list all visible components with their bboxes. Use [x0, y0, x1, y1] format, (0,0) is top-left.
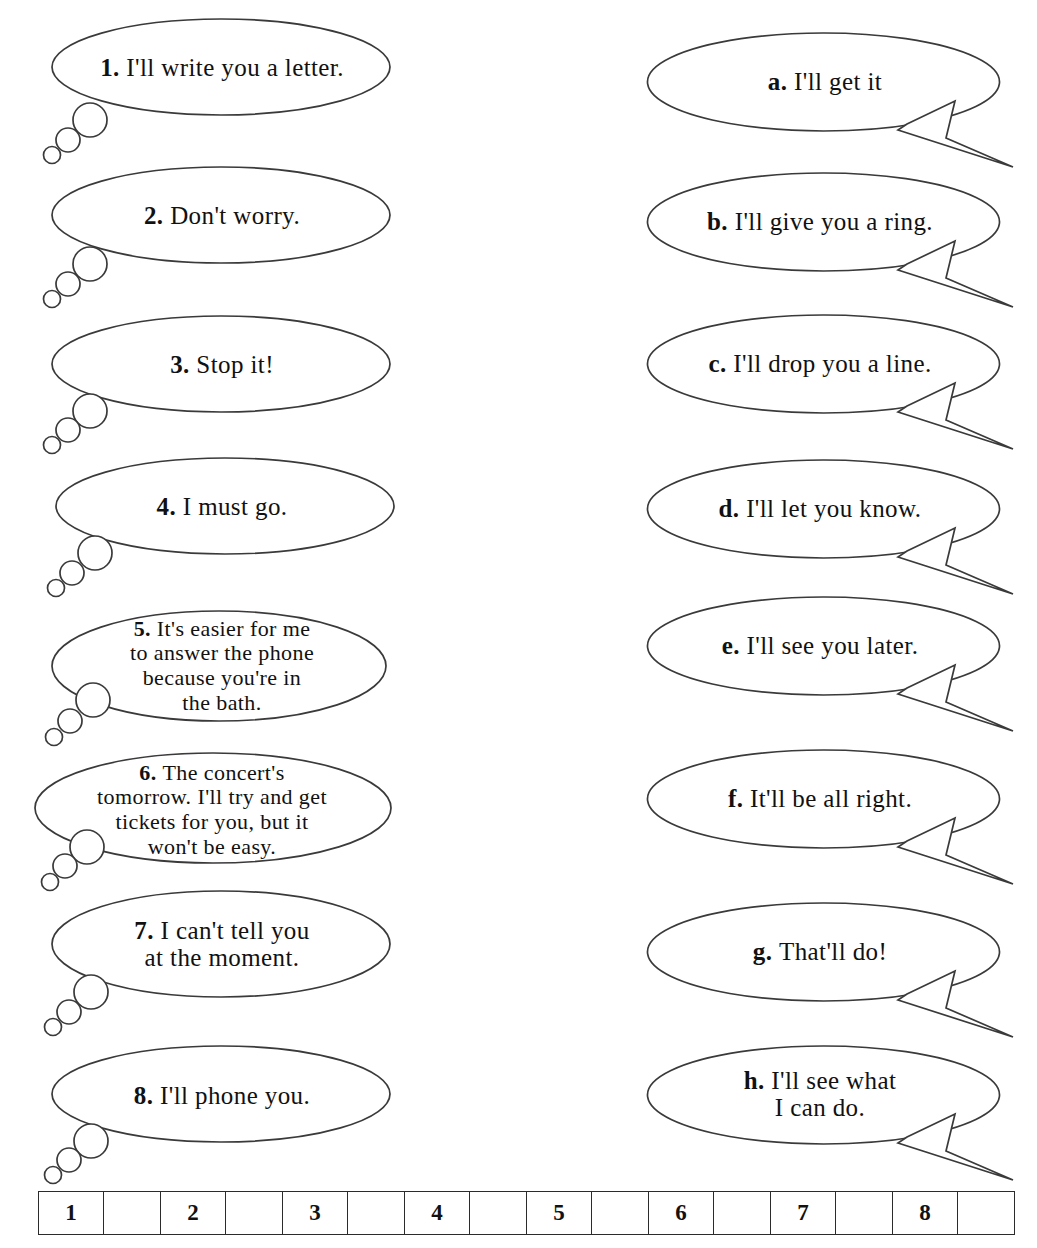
speech-bubble-tail	[898, 383, 1013, 449]
thought-dot-small	[44, 291, 61, 308]
answer-table-blank-cell-6[interactable]	[714, 1192, 771, 1235]
thought-bubble-6-text: 6. The concert'stomorrow. I'll try and g…	[34, 760, 390, 860]
answer-table-blank-cell-5[interactable]	[592, 1192, 649, 1235]
answer-table[interactable]: 12345678	[38, 1191, 1015, 1235]
answer-table-number-cell-5: 5	[527, 1192, 592, 1235]
speech-bubble-d-body: I'll let you know.	[746, 495, 921, 522]
thought-bubble-5-marker: 5.	[134, 616, 151, 641]
answer-table-blank-cell-2[interactable]	[226, 1192, 283, 1235]
answer-table-blank-cell-1[interactable]	[104, 1192, 161, 1235]
speech-bubble-g-marker: g.	[753, 938, 773, 965]
thought-dot-medium	[56, 418, 80, 442]
thought-bubble-7-text: 7. I can't tell youat the moment.	[52, 910, 392, 978]
answer-table-blank-cell-7[interactable]	[836, 1192, 893, 1235]
thought-bubble-1-marker: 1.	[100, 54, 120, 81]
answer-table-number-cell-4: 4	[405, 1192, 470, 1235]
thought-bubble-6-marker: 6.	[139, 760, 156, 785]
speech-bubble-c-text: c. I'll drop you a line.	[650, 340, 990, 386]
answer-table-blank-cell-3[interactable]	[348, 1192, 405, 1235]
thought-dot-small	[45, 1019, 62, 1036]
answer-table-number-cell-3: 3	[283, 1192, 348, 1235]
answer-table-number-cell-2: 2	[161, 1192, 226, 1235]
thought-dot-small	[48, 580, 65, 597]
thought-bubble-8-body: I'll phone you.	[160, 1082, 310, 1109]
speech-bubble-b-marker: b.	[707, 208, 728, 235]
answer-table-number-cell-1: 1	[39, 1192, 104, 1235]
speech-bubble-d-marker: d.	[719, 495, 740, 522]
thought-bubble-7-body: I can't tell youat the moment.	[145, 917, 310, 971]
speech-bubble-f-body: It'll be all right.	[750, 785, 912, 812]
speech-bubble-tail	[898, 528, 1013, 594]
speech-bubble-e-text: e. I'll see you later.	[650, 622, 990, 668]
answer-table-blank-cell-4[interactable]	[470, 1192, 527, 1235]
thought-dot-large	[74, 1124, 108, 1158]
thought-dot-small	[44, 437, 61, 454]
speech-bubble-a-marker: a.	[768, 68, 788, 95]
thought-bubble-2-body: Don't worry.	[170, 202, 300, 229]
thought-bubble-5-text: 5. It's easier for meto answer the phone…	[52, 616, 392, 716]
speech-bubble-c-body: I'll drop you a line.	[733, 350, 931, 377]
speech-bubble-g-text: g. That'll do!	[650, 928, 990, 974]
thought-dot-small	[46, 729, 63, 746]
speech-bubble-b-body: I'll give you a ring.	[735, 208, 933, 235]
thought-bubble-4-marker: 4.	[157, 493, 177, 520]
thought-dot-small	[42, 874, 59, 891]
thought-dot-small	[44, 147, 61, 164]
speech-bubble-tail	[898, 241, 1013, 307]
worksheet-page: 1. I'll write you a letter. 2. Don't wor…	[0, 0, 1037, 1248]
speech-bubble-tail	[898, 818, 1013, 884]
thought-bubble-4-body: I must go.	[183, 493, 288, 520]
speech-bubble-c-marker: c.	[708, 350, 726, 377]
thought-dot-large	[78, 536, 112, 570]
thought-bubble-1	[44, 19, 391, 164]
speech-bubble-d-text: d. I'll let you know.	[650, 485, 990, 531]
answer-table-row: 12345678	[39, 1192, 1015, 1235]
answer-table-number-cell-6: 6	[649, 1192, 714, 1235]
speech-bubble-b-text: b. I'll give you a ring.	[650, 198, 990, 244]
thought-dot-large	[73, 394, 107, 428]
thought-bubble-8-marker: 8.	[134, 1082, 154, 1109]
thought-bubble-1-text: 1. I'll write you a letter.	[52, 44, 392, 90]
answer-table-number-cell-7: 7	[771, 1192, 836, 1235]
answer-table-blank-cell-8[interactable]	[958, 1192, 1015, 1235]
speech-bubble-a-body: I'll get it	[794, 68, 882, 95]
thought-bubble-2-text: 2. Don't worry.	[52, 192, 392, 238]
thought-bubble-5-body: It's easier for meto answer the phonebec…	[130, 616, 314, 715]
speech-bubble-tail	[898, 101, 1013, 167]
speech-bubble-f-text: f. It'll be all right.	[650, 775, 990, 821]
thought-dot-medium	[57, 1000, 81, 1024]
thought-bubble-4-text: 4. I must go.	[52, 483, 392, 529]
speech-bubble-h-text: h. I'll see whatI can do.	[650, 1063, 990, 1125]
speech-bubble-a-text: a. I'll get it	[660, 58, 990, 104]
thought-dot-large	[73, 103, 107, 137]
speech-bubble-h-body: I'll see whatI can do.	[771, 1067, 896, 1121]
thought-bubble-7-marker: 7.	[134, 917, 154, 944]
thought-bubble-2-marker: 2.	[144, 202, 164, 229]
speech-bubble-h-marker: h.	[744, 1067, 765, 1094]
answer-table-number-cell-8: 8	[893, 1192, 958, 1235]
thought-bubble-3-marker: 3.	[170, 351, 190, 378]
speech-bubble-tail	[898, 971, 1013, 1037]
speech-bubble-e-body: I'll see you later.	[747, 632, 919, 659]
speech-bubble-g-body: That'll do!	[779, 938, 887, 965]
thought-dot-medium	[57, 1148, 81, 1172]
thought-bubble-1-body: I'll write you a letter.	[126, 54, 344, 81]
thought-dot-large	[74, 975, 108, 1009]
thought-dot-medium	[60, 561, 84, 585]
thought-dot-small	[45, 1167, 62, 1184]
thought-bubble-3-body: Stop it!	[196, 351, 274, 378]
speech-bubble-f-marker: f.	[728, 785, 743, 812]
thought-dot-medium	[56, 128, 80, 152]
thought-bubble-8-text: 8. I'll phone you.	[52, 1072, 392, 1118]
speech-bubble-e-marker: e.	[722, 632, 740, 659]
thought-bubble-6-body: The concert'stomorrow. I'll try and gett…	[97, 760, 327, 859]
thought-dot-large	[73, 247, 107, 281]
thought-bubble-3-text: 3. Stop it!	[52, 341, 392, 387]
thought-dot-medium	[56, 272, 80, 296]
speech-bubble-tail	[898, 665, 1013, 731]
